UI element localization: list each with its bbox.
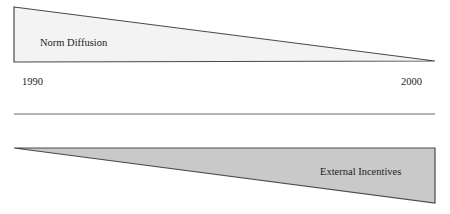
diagram-canvas [0, 0, 450, 214]
external-incentives-label: External Incentives [320, 167, 401, 178]
timeline-start-label: 1990 [22, 77, 43, 88]
norm-diffusion-wedge [14, 7, 435, 62]
norm-diffusion-label: Norm Diffusion [40, 38, 107, 49]
timeline-end-label: 2000 [401, 77, 422, 88]
